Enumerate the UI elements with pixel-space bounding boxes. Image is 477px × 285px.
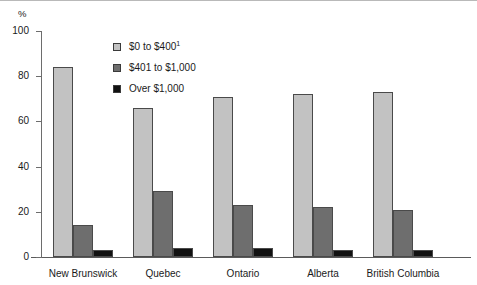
legend-swatch-icon <box>113 43 121 51</box>
bar <box>153 191 173 257</box>
y-axis-tick-label: 100 <box>12 26 29 36</box>
y-axis-tick-label: 20 <box>18 207 29 217</box>
legend-item: Over $1,000 <box>113 84 196 94</box>
bar <box>293 94 313 257</box>
legend-item: $0 to $4001 <box>113 42 196 52</box>
bar <box>373 92 393 257</box>
bar <box>173 248 193 257</box>
x-axis-line <box>31 257 471 258</box>
y-axis-tick-label: 60 <box>18 116 29 126</box>
bar <box>413 250 433 257</box>
bar <box>93 250 113 257</box>
bar-group <box>373 31 433 257</box>
bar-chart-figure: % 020406080100 New BrunswickQuebecOntari… <box>0 0 477 285</box>
bar <box>133 108 153 257</box>
y-axis-tick-label: 40 <box>18 162 29 172</box>
legend-footnote-marker: 1 <box>176 40 180 47</box>
bar <box>73 225 93 257</box>
legend-item: $401 to $1,000 <box>113 63 196 73</box>
y-axis-tick: 0 <box>36 257 42 258</box>
legend-item-label: $0 to $4001 <box>129 42 180 52</box>
bar-group <box>53 31 113 257</box>
y-axis-tick: 20 <box>36 212 42 213</box>
y-axis-line <box>41 31 42 257</box>
y-axis-tick: 100 <box>36 31 42 32</box>
bar <box>233 205 253 257</box>
y-axis-tick: 60 <box>36 121 42 122</box>
y-axis-unit-label: % <box>18 8 27 19</box>
scan-line-artifact <box>0 0 477 1</box>
y-axis-tick: 40 <box>36 167 42 168</box>
y-axis-tick-label: 0 <box>23 252 29 262</box>
bar <box>53 67 73 257</box>
x-axis-category-label: British Columbia <box>367 269 440 279</box>
x-axis-category-label: Quebec <box>145 269 180 279</box>
x-axis-category-label: Ontario <box>227 269 260 279</box>
y-axis-tick: 80 <box>36 76 42 77</box>
x-axis-category-label: Alberta <box>307 269 339 279</box>
bar-group <box>293 31 353 257</box>
legend-swatch-icon <box>113 85 121 93</box>
bar <box>213 97 233 257</box>
bar <box>253 248 273 257</box>
bar-group <box>213 31 273 257</box>
legend-item-label: Over $1,000 <box>129 84 184 94</box>
plot-area: 020406080100 New BrunswickQuebecOntarioA… <box>41 31 471 257</box>
chart-legend: $0 to $4001$401 to $1,000Over $1,000 <box>113 42 196 94</box>
bar <box>333 250 353 257</box>
legend-item-label: $401 to $1,000 <box>129 63 196 73</box>
bar <box>313 207 333 257</box>
bar <box>393 210 413 257</box>
legend-swatch-icon <box>113 64 121 72</box>
x-axis-category-label: New Brunswick <box>49 269 117 279</box>
y-axis-tick-label: 80 <box>18 71 29 81</box>
